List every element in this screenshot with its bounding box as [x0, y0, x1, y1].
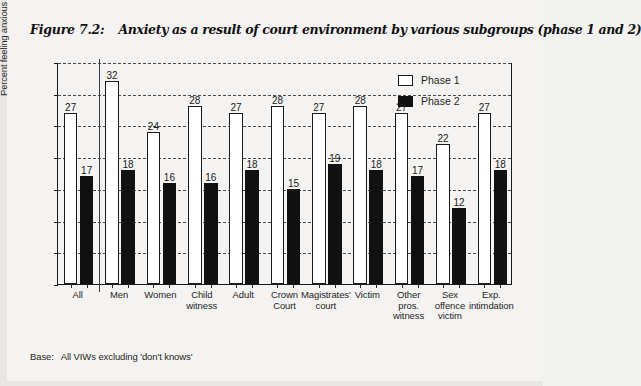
x-tick-mark [236, 284, 237, 288]
bar-phase-1: 27 [312, 113, 326, 284]
figure-number: Figure 7.2: [30, 22, 105, 37]
y-axis-title: Percent feeling anxious [0, 2, 9, 96]
bar-phase-2: 16 [163, 183, 177, 284]
bar-phase-1: 28 [353, 106, 367, 284]
bar-phase-2: 17 [80, 176, 94, 284]
bar-value-label: 17 [412, 165, 423, 176]
bar-value-label: 18 [495, 159, 506, 170]
footnote-label: Base: [30, 351, 54, 362]
legend-label-phase-1: Phase 1 [421, 74, 460, 86]
x-tick-mark [169, 284, 170, 288]
bar-value-label: 19 [329, 153, 340, 164]
bar-value-label: 28 [272, 95, 283, 106]
bar-phase-1: 27 [395, 113, 409, 284]
x-tick-mark [360, 284, 361, 288]
bar-phase-2: 16 [204, 183, 218, 284]
bar-phase-2: 18 [245, 170, 259, 284]
bar-group: 2717 [58, 63, 99, 284]
bar-group: 2719 [306, 63, 347, 284]
x-tick-mark [252, 284, 253, 288]
bar-value-label: 27 [479, 102, 490, 113]
bar-value-label: 27 [313, 102, 324, 113]
x-axis-label-line: victim [421, 311, 478, 322]
legend-item-phase-2: Phase 2 [398, 95, 460, 107]
bar-group: 2416 [141, 63, 182, 284]
bar-phase-1: 32 [105, 81, 119, 284]
bar-phase-1: 28 [271, 106, 285, 284]
page-bottom-margin [0, 381, 543, 386]
x-tick-mark [376, 284, 377, 288]
x-tick-mark [418, 284, 419, 288]
legend-swatch-phase-1-icon [398, 75, 413, 86]
y-tick-mark-0 [54, 285, 58, 286]
x-tick-mark [87, 284, 88, 288]
bar-phase-2: 12 [452, 208, 466, 284]
bar-group: 3218 [99, 63, 140, 284]
bar-value-label: 18 [122, 159, 133, 170]
bar-phase-1: 27 [478, 113, 492, 284]
bar-phase-2: 18 [494, 170, 508, 284]
bar-group: 2718 [472, 63, 513, 284]
x-tick-mark [71, 284, 72, 288]
x-tick-mark [484, 284, 485, 288]
bar-phase-1: 27 [64, 113, 78, 284]
bar-phase-2: 15 [287, 189, 301, 284]
bar-phase-1: 28 [188, 106, 202, 284]
x-tick-mark [293, 284, 294, 288]
bar-phase-2: 17 [411, 176, 425, 284]
bar-value-label: 18 [247, 159, 258, 170]
bar-value-label: 28 [355, 95, 366, 106]
x-tick-mark [277, 284, 278, 288]
x-tick-mark [128, 284, 129, 288]
figure-title: Anxiety as a result of court environment… [119, 22, 641, 37]
legend-item-phase-1: Phase 1 [398, 74, 460, 86]
bar-group: 2718 [223, 63, 264, 284]
bar-value-label: 27 [231, 102, 242, 113]
bar-value-label: 24 [148, 121, 159, 132]
bar-group: 2815 [265, 63, 306, 284]
bar-phase-1: 22 [436, 144, 450, 284]
chart-legend: Phase 1 Phase 2 [398, 74, 460, 116]
bar-value-label: 22 [437, 133, 448, 144]
x-tick-mark [459, 284, 460, 288]
group-divider-line [99, 59, 100, 292]
bar-value-label: 15 [288, 178, 299, 189]
x-axis-label-line: court [297, 301, 354, 312]
bar-value-label: 16 [205, 172, 216, 183]
x-tick-mark [195, 284, 196, 288]
x-axis-label-line: witness [173, 301, 230, 312]
bar-value-label: 12 [453, 197, 464, 208]
bar-phase-1: 24 [147, 132, 161, 284]
bar-value-label: 17 [81, 165, 92, 176]
bar-group: 2818 [348, 63, 389, 284]
figure-footnote: Base:All VIWs excluding 'don't knows' [30, 351, 192, 362]
bar-group: 2816 [182, 63, 223, 284]
figure-title-row: Figure 7.2: Anxiety as a result of court… [30, 22, 530, 37]
legend-label-phase-2: Phase 2 [421, 95, 460, 107]
bar-value-label: 16 [164, 172, 175, 183]
x-tick-mark [443, 284, 444, 288]
x-axis-label: Exp.intimdation [463, 290, 520, 311]
bar-value-label: 32 [106, 70, 117, 81]
legend-swatch-phase-2-icon [398, 96, 413, 107]
x-tick-mark [319, 284, 320, 288]
bar-value-label: 27 [65, 102, 76, 113]
x-tick-mark [112, 284, 113, 288]
x-tick-mark [402, 284, 403, 288]
x-tick-mark [335, 284, 336, 288]
bar-phase-2: 18 [369, 170, 383, 284]
bar-value-label: 28 [189, 95, 200, 106]
x-axis-label-line: intimdation [463, 301, 520, 312]
x-tick-mark [153, 284, 154, 288]
bar-phase-2: 18 [121, 170, 135, 284]
bar-value-label: 18 [371, 159, 382, 170]
bar-phase-1: 27 [229, 113, 243, 284]
bar-phase-2: 19 [328, 164, 342, 285]
x-axis-label-line: Exp. [463, 290, 520, 301]
x-tick-mark [211, 284, 212, 288]
x-tick-mark [500, 284, 501, 288]
footnote-text: All VIWs excluding 'don't knows' [61, 351, 193, 362]
